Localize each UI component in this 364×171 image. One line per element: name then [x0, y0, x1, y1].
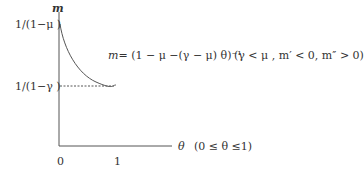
equation: m= (1 − μ −(γ − μ) θ)⁻¹: [108, 50, 242, 61]
y-axis-label: m: [52, 3, 64, 14]
y-tick-upper-label: 1/(1−μ ): [15, 19, 61, 30]
x-axis-label: θ: [178, 141, 185, 152]
x-tick-1-label: 1: [114, 156, 121, 167]
conditions: (γ < μ , m′ < 0, m″ > 0): [234, 50, 364, 61]
x-range-note: (0 ≤ θ ≤1): [194, 141, 252, 152]
x-tick-0-label: 0: [57, 156, 64, 167]
equation-lhs: m: [108, 49, 118, 62]
y-tick-lower-label: 1/(1−γ ): [15, 81, 61, 92]
equation-rhs: = (1 − μ −(γ − μ) θ)⁻¹: [118, 49, 241, 62]
